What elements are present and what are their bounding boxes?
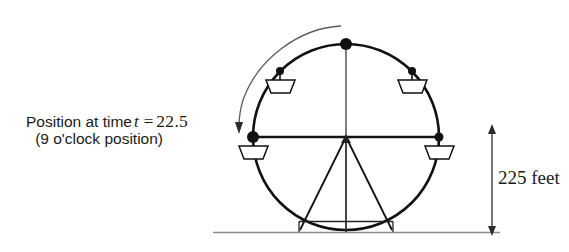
marker-dot-right-3-oclock xyxy=(435,133,444,142)
equals-sign: = xyxy=(141,112,157,131)
time-variable: t xyxy=(132,112,141,131)
rotation-arrowhead xyxy=(235,122,243,134)
marker-dot-left-9-oclock xyxy=(247,131,259,143)
height-arrowhead-bottom xyxy=(488,226,496,236)
position-annotation-prefix: Position at time xyxy=(26,113,132,130)
position-time-annotation: Position at timet=22.5 (9 o'clock positi… xyxy=(26,112,188,147)
ferris-wheel-figure: Position at timet=22.5 (9 o'clock positi… xyxy=(0,0,569,252)
rotation-arc-path xyxy=(239,26,341,127)
support-leg-right xyxy=(346,137,392,230)
height-dimension-arrow xyxy=(488,124,496,236)
support-leg-left xyxy=(300,137,346,230)
time-value: 22.5 xyxy=(156,111,188,131)
position-annotation-line1: Position at timet=22.5 xyxy=(26,112,188,131)
height-dimension-label: 225 feet xyxy=(498,168,560,188)
position-annotation-line2: (9 o'clock position) xyxy=(26,131,188,147)
marker-dot-top xyxy=(340,38,352,50)
height-arrowhead-top xyxy=(488,124,496,134)
hub-marker xyxy=(341,134,351,143)
marker-dot-upper-left xyxy=(276,67,284,75)
marker-dot-upper-right xyxy=(408,67,416,75)
